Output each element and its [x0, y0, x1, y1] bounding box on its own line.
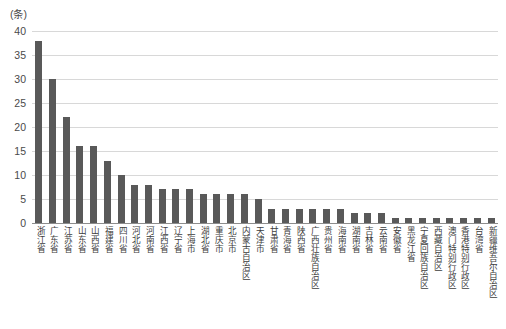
x-tick-label: 吉林省	[363, 226, 372, 326]
bar	[104, 161, 111, 223]
x-tick-label: 福建省	[103, 226, 112, 326]
bar	[227, 194, 234, 223]
bar-slot	[484, 31, 498, 223]
x-label-slot: 辽宁省	[169, 226, 183, 326]
x-label-slot: 宁夏回族自治区	[416, 226, 430, 326]
bar	[118, 175, 125, 223]
bar-slot	[155, 31, 169, 223]
y-tick-label: 35	[14, 49, 26, 61]
x-label-slot: 黑龙江省	[402, 226, 416, 326]
x-label-slot: 北京市	[224, 226, 238, 326]
bar	[309, 209, 316, 223]
x-tick-label: 山西省	[89, 226, 98, 326]
x-label-slot: 四川省	[114, 226, 128, 326]
x-tick-label: 湖南省	[349, 226, 358, 326]
plot-area	[32, 31, 498, 223]
y-axis-tick-labels: 4035302520151050	[0, 31, 30, 223]
bar	[159, 189, 166, 223]
x-tick-label: 西藏自治区	[432, 226, 441, 326]
bar-slot	[306, 31, 320, 223]
bar-slot	[32, 31, 46, 223]
y-tick-label: 0	[20, 217, 26, 229]
x-label-slot: 青海省	[279, 226, 293, 326]
bar-slot	[361, 31, 375, 223]
x-axis-tick-labels: 浙江省广东省江苏省山东省山西省福建省四川省河北省河南省江西省辽宁省上海市湖北省重…	[32, 226, 498, 326]
bar-slot	[333, 31, 347, 223]
bar-slot	[402, 31, 416, 223]
bar	[255, 199, 262, 223]
bar-slot	[320, 31, 334, 223]
x-tick-label: 湖北省	[199, 226, 208, 326]
bar	[378, 213, 385, 223]
x-tick-label: 江苏省	[62, 226, 71, 326]
x-label-slot: 台湾省	[471, 226, 485, 326]
x-tick-label: 广西壮族自治区	[308, 226, 317, 326]
bar	[131, 185, 138, 223]
bar	[35, 41, 42, 223]
bar-slot	[87, 31, 101, 223]
x-label-slot: 天津市	[251, 226, 265, 326]
bar-chart: (条) 4035302520151050 浙江省广东省江苏省山东省山西省福建省四…	[0, 0, 506, 329]
x-tick-label: 云南省	[377, 226, 386, 326]
x-tick-label: 江西省	[157, 226, 166, 326]
x-tick-label: 山东省	[75, 226, 84, 326]
y-tick-label: 15	[14, 145, 26, 157]
bar	[323, 209, 330, 223]
bar	[419, 218, 426, 223]
bar-slot	[101, 31, 115, 223]
bar-slot	[73, 31, 87, 223]
x-tick-label: 黑龙江省	[404, 226, 413, 326]
bar	[392, 218, 399, 223]
x-tick-label: 内蒙古自治区	[240, 226, 249, 326]
x-label-slot: 浙江省	[32, 226, 46, 326]
bar	[405, 218, 412, 223]
x-axis-line	[32, 223, 498, 224]
x-label-slot: 内蒙古自治区	[238, 226, 252, 326]
x-label-slot: 湖北省	[196, 226, 210, 326]
x-label-slot: 香港特别行政区	[457, 226, 471, 326]
bar	[433, 218, 440, 223]
bar	[145, 185, 152, 223]
x-label-slot: 甘肃省	[265, 226, 279, 326]
bar-slot	[114, 31, 128, 223]
x-tick-label: 四川省	[116, 226, 125, 326]
x-label-slot: 江西省	[155, 226, 169, 326]
x-tick-label: 新疆维吾尔自治区	[486, 226, 495, 326]
bar-slot	[183, 31, 197, 223]
bar-slot	[279, 31, 293, 223]
y-axis-unit-label: (条)	[10, 6, 27, 21]
x-label-slot: 广东省	[46, 226, 60, 326]
bar-slot	[224, 31, 238, 223]
y-tick-label: 25	[14, 97, 26, 109]
x-label-slot: 新疆维吾尔自治区	[484, 226, 498, 326]
bar	[90, 146, 97, 223]
bar	[213, 194, 220, 223]
x-label-slot: 重庆市	[210, 226, 224, 326]
x-label-slot: 澳门特别行政区	[443, 226, 457, 326]
x-tick-label: 河北省	[130, 226, 139, 326]
x-tick-label: 天津市	[253, 226, 262, 326]
bar-slot	[388, 31, 402, 223]
bar	[460, 218, 467, 223]
bar-slot	[347, 31, 361, 223]
x-label-slot: 山东省	[73, 226, 87, 326]
bar-slot	[265, 31, 279, 223]
bar-slot	[251, 31, 265, 223]
bar-slot	[169, 31, 183, 223]
y-tick-label: 30	[14, 73, 26, 85]
bar-slot	[292, 31, 306, 223]
x-label-slot: 陕西省	[292, 226, 306, 326]
x-label-slot: 江苏省	[59, 226, 73, 326]
x-tick-label: 陕西省	[295, 226, 304, 326]
x-tick-label: 辽宁省	[171, 226, 180, 326]
y-tick-label: 10	[14, 169, 26, 181]
x-tick-label: 安徽省	[390, 226, 399, 326]
bar	[268, 209, 275, 223]
y-tick-label: 20	[14, 121, 26, 133]
x-label-slot: 西藏自治区	[429, 226, 443, 326]
x-tick-label: 香港特别行政区	[459, 226, 468, 326]
x-label-slot: 海南省	[333, 226, 347, 326]
bar-slot	[210, 31, 224, 223]
x-tick-label: 宁夏回族自治区	[418, 226, 427, 326]
bar-slot	[238, 31, 252, 223]
